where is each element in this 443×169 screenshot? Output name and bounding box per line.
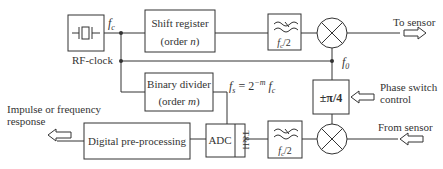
- phase-switch-block: ±π/4: [313, 80, 349, 114]
- rf-clock-label: RF-clock: [72, 54, 113, 66]
- adc-block: ADC T&H: [206, 124, 251, 157]
- svg-text:(order n): (order n): [161, 35, 200, 48]
- to-sensor-label: To sensor: [393, 16, 436, 28]
- rf-clock-block: [68, 15, 104, 51]
- arrow-right-icon: [404, 27, 426, 39]
- svg-text:±π/4: ±π/4: [320, 91, 343, 105]
- junction-dot: [330, 59, 334, 63]
- lowpass-filter-bottom: fc/2: [268, 121, 302, 158]
- shift-register-block: Shift register (order n): [145, 10, 215, 52]
- arrow-left-icon: [351, 91, 374, 103]
- svg-text:Digital pre-processing: Digital pre-processing: [88, 135, 187, 147]
- fs-equation: fs = 2−m fc: [229, 78, 276, 95]
- mixer-top-icon: [317, 18, 347, 48]
- arrow-left-icon: [48, 129, 71, 141]
- svg-text:ADC: ADC: [208, 134, 231, 146]
- f0-label: f0: [342, 55, 349, 71]
- svg-text:response: response: [7, 115, 46, 127]
- svg-text:(order m): (order m): [158, 95, 200, 108]
- phase-switch-control-label: Phase switch: [380, 81, 438, 93]
- output-label: Impulse or frequency: [7, 103, 102, 115]
- from-sensor-label: From sensor: [378, 121, 433, 133]
- digital-preprocessing-block: Digital pre-processing: [84, 123, 190, 159]
- binary-divider-block: Binary divider (order m): [145, 73, 213, 111]
- track-and-hold-label: T&H: [241, 131, 251, 150]
- svg-text:control: control: [380, 93, 411, 105]
- wire-divider-adc: [213, 92, 227, 124]
- svg-text:Binary divider: Binary divider: [147, 78, 211, 90]
- block-diagram: RF-clock fc Shift register (order n) fc/…: [0, 0, 443, 169]
- mixer-bottom-icon: [317, 124, 347, 154]
- svg-text:Shift register: Shift register: [151, 17, 208, 29]
- fc-label: fc: [108, 16, 115, 32]
- lowpass-filter-top: fc/2: [268, 14, 301, 50]
- arrow-left-icon: [400, 133, 423, 145]
